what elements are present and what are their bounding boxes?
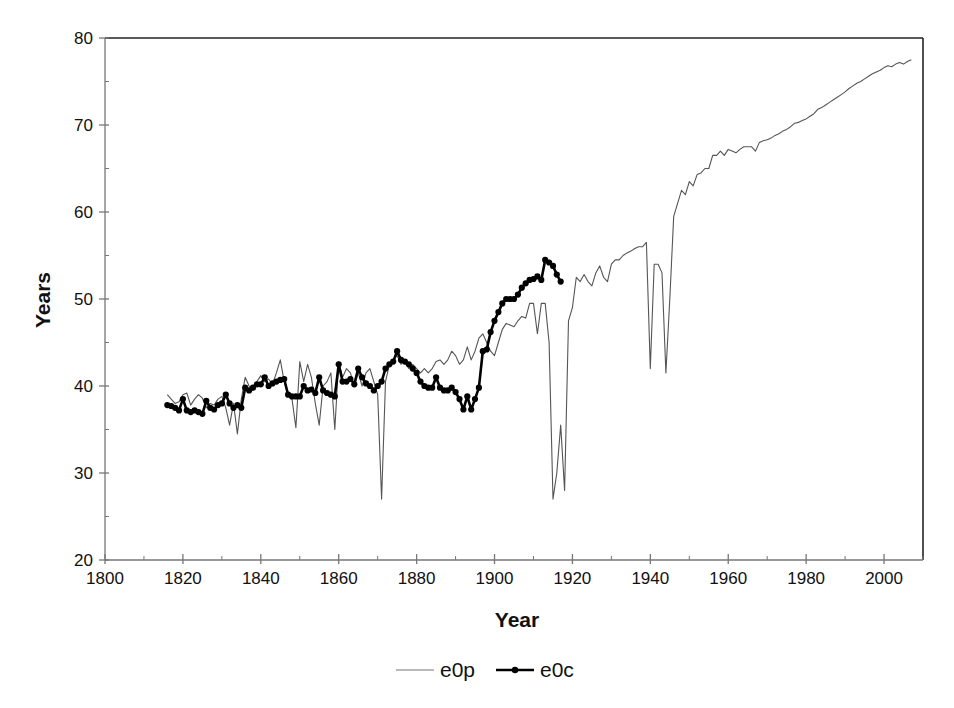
life-expectancy-chart: 20304050607080 1800182018401860188019001… <box>0 0 954 708</box>
data-point-e0c <box>472 396 478 402</box>
x-tick-label: 1820 <box>164 569 202 588</box>
data-point-e0c <box>359 374 365 380</box>
y-tick-label: 20 <box>74 551 93 570</box>
x-tick-label: 2000 <box>865 569 903 588</box>
legend-label-e0c: e0c <box>540 658 574 681</box>
data-point-e0c <box>223 392 229 398</box>
x-tick-label: 1840 <box>242 569 280 588</box>
data-point-e0c <box>379 379 385 385</box>
x-tick-label: 1860 <box>320 569 358 588</box>
data-point-e0c <box>281 376 287 382</box>
data-point-e0c <box>433 374 439 380</box>
data-point-e0c <box>262 374 268 380</box>
data-point-e0c <box>180 396 186 402</box>
x-tick-label: 1920 <box>554 569 592 588</box>
x-tick-label: 1800 <box>86 569 124 588</box>
legend-marker-e0c <box>512 667 518 673</box>
y-tick-label: 50 <box>74 290 93 309</box>
y-tick-label: 60 <box>74 203 93 222</box>
data-point-e0c <box>453 389 459 395</box>
data-point-e0c <box>176 407 182 413</box>
data-point-e0c <box>312 390 318 396</box>
data-point-e0c <box>464 393 470 399</box>
data-point-e0c <box>484 346 490 352</box>
y-tick-label: 30 <box>74 464 93 483</box>
data-point-e0c <box>538 277 544 283</box>
data-point-e0c <box>550 263 556 269</box>
data-point-e0c <box>491 318 497 324</box>
y-tick-label: 70 <box>74 116 93 135</box>
data-point-e0c <box>414 370 420 376</box>
data-point-e0c <box>316 374 322 380</box>
x-tick-label: 1940 <box>631 569 669 588</box>
data-point-e0c <box>238 405 244 411</box>
data-point-e0c <box>429 385 435 391</box>
x-axis-title: Year <box>495 608 539 631</box>
y-tick-label: 80 <box>74 29 93 48</box>
data-point-e0c <box>460 406 466 412</box>
data-point-e0c <box>394 348 400 354</box>
data-point-e0c <box>258 381 264 387</box>
data-point-e0c <box>199 411 205 417</box>
data-point-e0c <box>351 381 357 387</box>
data-point-e0c <box>336 361 342 367</box>
y-axis-title: Years <box>31 272 54 328</box>
x-tick-label: 1960 <box>709 569 747 588</box>
data-point-e0c <box>203 398 209 404</box>
x-tick-label: 1900 <box>476 569 514 588</box>
x-tick-label: 1880 <box>398 569 436 588</box>
data-point-e0c <box>297 393 303 399</box>
data-point-e0c <box>468 406 474 412</box>
legend-label-e0p: e0p <box>440 658 475 681</box>
data-point-e0c <box>347 376 353 382</box>
data-point-e0c <box>390 359 396 365</box>
data-point-e0c <box>332 393 338 399</box>
data-point-e0c <box>488 329 494 335</box>
y-tick-label: 40 <box>74 377 93 396</box>
data-point-e0c <box>495 309 501 315</box>
data-point-e0c <box>456 396 462 402</box>
data-point-e0c <box>476 385 482 391</box>
data-point-e0c <box>515 292 521 298</box>
x-tick-label: 1980 <box>787 569 825 588</box>
data-point-e0c <box>554 272 560 278</box>
data-point-e0c <box>355 366 361 372</box>
data-point-e0c <box>219 400 225 406</box>
data-point-e0c <box>558 279 564 285</box>
